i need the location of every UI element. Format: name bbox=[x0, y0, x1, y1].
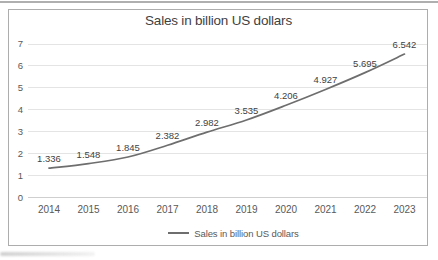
chart-frame bbox=[8, 9, 428, 246]
screenshot-smudge-artifact bbox=[0, 252, 95, 256]
legend-line-icon bbox=[168, 232, 189, 234]
legend-label: Sales in billion US dollars bbox=[194, 228, 299, 239]
screenshot-root: Sales in billion US dollars 012345672014… bbox=[0, 0, 438, 260]
chart-title: Sales in billion US dollars bbox=[8, 13, 429, 28]
window-edge-artifact bbox=[0, 1, 438, 3]
chart-legend: Sales in billion US dollars bbox=[28, 226, 427, 240]
